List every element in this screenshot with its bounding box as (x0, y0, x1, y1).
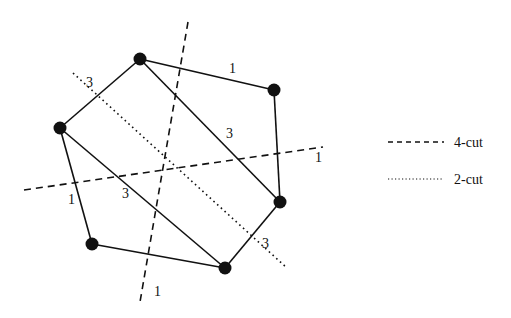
cut-line-2-diagonal (73, 73, 287, 268)
edge-weight-label: 1 (154, 284, 161, 299)
edge-weight-label: 1 (315, 150, 322, 165)
legend-label-4-cut: 4-cut (454, 135, 483, 150)
edge (60, 128, 225, 268)
edge-weight-label: 3 (262, 236, 269, 251)
legend-label-2-cut: 2-cut (454, 172, 483, 187)
edge-weight-label: 1 (68, 192, 75, 207)
node (219, 262, 232, 275)
graph-diagram: 1 3 3 1 1 3 1 3 4-cut 2-cut (0, 0, 511, 318)
edge (140, 59, 274, 90)
edge (92, 244, 225, 268)
edge-weight-label: 3 (86, 75, 93, 90)
edge-weight-label: 3 (122, 186, 129, 201)
node (268, 84, 281, 97)
node (86, 238, 99, 251)
edge (60, 59, 140, 128)
legend: 4-cut 2-cut (388, 135, 483, 187)
node (54, 122, 67, 135)
node (134, 53, 147, 66)
edge (60, 128, 92, 244)
edge (225, 202, 280, 268)
edge-weight-label: 1 (229, 61, 236, 76)
node (274, 196, 287, 209)
edge-weight-label: 3 (226, 126, 233, 141)
edge (274, 90, 280, 202)
